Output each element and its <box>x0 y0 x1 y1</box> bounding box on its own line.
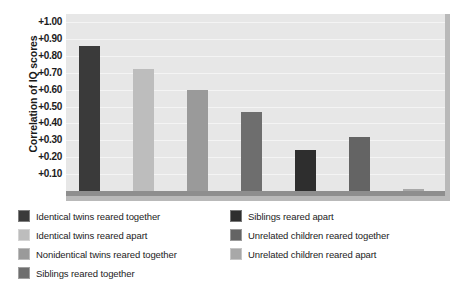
bar <box>133 69 154 191</box>
legend-label: Siblings reared apart <box>248 211 334 222</box>
legend-color-swatch <box>18 248 30 260</box>
legend-label: Nonidentical twins reared together <box>36 249 177 260</box>
plot-inner <box>66 14 445 196</box>
y-tick-label: +0.90 <box>14 34 62 44</box>
legend-label: Unrelated children reared together <box>248 230 389 241</box>
y-tick-label: +0.70 <box>14 68 62 78</box>
legend-label: Unrelated children reared apart <box>248 249 376 260</box>
legend-item: Unrelated children reared apart <box>230 245 456 263</box>
iq-correlation-bar-chart: Correlation of IQ scores +1.00+0.90+0.80… <box>0 0 456 291</box>
plot-area <box>66 14 445 196</box>
y-tick-label: +1.00 <box>14 17 62 27</box>
y-tick-label: +0.10 <box>14 169 62 179</box>
legend-color-swatch <box>230 248 242 260</box>
bar <box>295 150 316 191</box>
legend-item: Siblings reared apart <box>230 207 456 225</box>
legend-label: Siblings reared together <box>36 268 134 279</box>
legend-item: Unrelated children reared together <box>230 226 456 244</box>
y-axis-tick-labels: +1.00+0.90+0.80+0.70+0.60+0.50+0.40+0.30… <box>14 14 62 196</box>
x-axis-baseline <box>66 191 445 196</box>
gridline <box>66 90 445 91</box>
y-tick-label: +0.60 <box>14 85 62 95</box>
y-tick-label: +0.20 <box>14 152 62 162</box>
legend-color-swatch <box>230 210 242 222</box>
bar <box>349 137 370 191</box>
legend-color-swatch <box>18 267 30 279</box>
y-tick-label: +0.50 <box>14 102 62 112</box>
legend-label: Identical twins reared together <box>36 211 160 222</box>
bar <box>241 112 262 191</box>
gridline <box>66 39 445 40</box>
gridline <box>66 73 445 74</box>
legend-color-swatch <box>230 229 242 241</box>
gridline <box>66 56 445 57</box>
legend-color-swatch <box>18 229 30 241</box>
y-tick-label: +0.80 <box>14 51 62 61</box>
legend-item: Identical twins reared apart <box>18 226 228 244</box>
legend: Identical twins reared togetherIdentical… <box>14 207 454 287</box>
legend-column-left: Identical twins reared togetherIdentical… <box>18 207 228 283</box>
legend-item: Siblings reared together <box>18 264 228 282</box>
y-tick-label: +0.30 <box>14 135 62 145</box>
bar <box>79 46 100 191</box>
legend-item: Nonidentical twins reared together <box>18 245 228 263</box>
legend-column-right: Siblings reared apartUnrelated children … <box>230 207 456 264</box>
bar <box>187 90 208 191</box>
y-tick-label: +0.40 <box>14 118 62 128</box>
legend-color-swatch <box>18 210 30 222</box>
gridline <box>66 107 445 108</box>
legend-label: Identical twins reared apart <box>36 230 147 241</box>
legend-item: Identical twins reared together <box>18 207 228 225</box>
gridline <box>66 22 445 23</box>
